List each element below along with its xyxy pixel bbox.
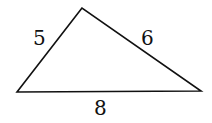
triangle-diagram: 5 6 8 [0, 0, 212, 123]
side-label-left: 5 [33, 26, 46, 50]
side-label-bottom: 8 [94, 96, 107, 120]
triangle-shape [17, 8, 201, 92]
side-label-right: 6 [141, 26, 154, 50]
